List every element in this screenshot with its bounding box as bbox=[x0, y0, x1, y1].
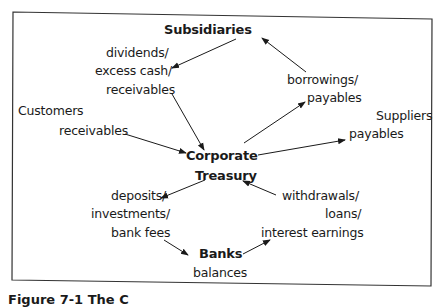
flow-label-deposits: deposits/ bbox=[111, 189, 166, 203]
flow-label-withdrawals: withdrawals/ bbox=[282, 189, 359, 203]
flow-label-borrowings: borrowings/ bbox=[287, 73, 358, 87]
figure-caption: Figure 7-1 The C bbox=[8, 292, 129, 307]
flow-label-investments: investments/ bbox=[91, 207, 170, 221]
flow-label-bank-fees: bank fees bbox=[111, 226, 170, 240]
flow-label-payables-subsidiaries: payables bbox=[307, 91, 362, 105]
arrow-corporate-to-suppliers bbox=[258, 140, 345, 155]
flow-label-receivables-subsidiaries: receivables bbox=[106, 83, 175, 97]
flow-label-dividends: dividends/ bbox=[106, 46, 168, 60]
flow-label-payables-suppliers: payables bbox=[349, 127, 404, 141]
arrow-borrowings-to-subsidiaries bbox=[262, 38, 306, 72]
node-customers: Customers bbox=[18, 104, 83, 118]
node-treasury: Treasury bbox=[195, 168, 257, 183]
node-subsidiaries: Subsidiaries bbox=[164, 22, 252, 37]
arrow-withdrawals-to-treasury bbox=[243, 181, 276, 195]
arrow-bankfees-to-banks bbox=[164, 240, 188, 255]
arrow-corporate-to-borrowings bbox=[244, 102, 305, 143]
arrow-subsidiaries-to-excess-cash bbox=[172, 39, 236, 68]
banks-balances-label: balances bbox=[193, 266, 247, 280]
flow-label-interest-earnings: interest earnings bbox=[261, 226, 364, 240]
flow-label-receivables-customers: receivables bbox=[59, 124, 128, 138]
flow-label-excess-cash: excess cash/ bbox=[95, 64, 172, 78]
arrow-receivables-to-corporate bbox=[172, 94, 204, 150]
node-corporate: Corporate bbox=[186, 148, 258, 163]
flow-label-loans: loans/ bbox=[325, 207, 361, 221]
arrow-banks-to-interest bbox=[243, 240, 270, 254]
arrow-customers-to-corporate bbox=[125, 134, 186, 153]
node-banks: Banks bbox=[199, 246, 242, 261]
node-suppliers: Suppliers bbox=[376, 109, 432, 123]
